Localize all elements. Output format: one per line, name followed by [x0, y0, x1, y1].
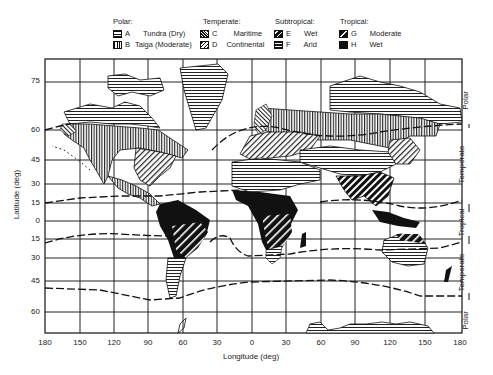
y-tick: 0 [20, 216, 40, 225]
y-tick: 15 [20, 234, 40, 243]
x-tick: 60 [179, 338, 188, 347]
x-tick: 90 [144, 338, 153, 347]
x-tick: 0 [250, 338, 254, 347]
x-tick: 30 [282, 338, 291, 347]
x-tick: 150 [418, 338, 431, 347]
x-tick: 120 [107, 338, 120, 347]
zone-separators [465, 0, 475, 375]
y-tick: 15 [20, 198, 40, 207]
x-axis-label: Longitude (deg) [223, 352, 279, 361]
x-tick: 150 [73, 338, 86, 347]
x-tick: 30 [213, 338, 222, 347]
y-tick: 75 [20, 76, 40, 85]
climate-zone-map [0, 0, 493, 375]
y-tick: 30 [20, 253, 40, 262]
x-tick: 60 [317, 338, 326, 347]
x-tick: 120 [383, 338, 396, 347]
y-tick: 60 [20, 307, 40, 316]
x-tick: 90 [351, 338, 360, 347]
y-tick: 30 [20, 179, 40, 188]
y-tick: 45 [20, 276, 40, 285]
y-tick: 60 [20, 125, 40, 134]
y-axis-label: Latitude (deg) [12, 170, 21, 219]
x-tick: 180 [38, 338, 51, 347]
y-tick: 45 [20, 155, 40, 164]
